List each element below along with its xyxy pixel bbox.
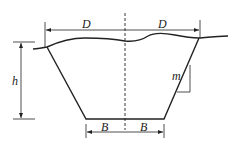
bottom-width-dimension	[86, 124, 164, 138]
label-h: h	[12, 74, 18, 88]
ground-surface-line	[33, 33, 228, 49]
label-m: m	[172, 69, 181, 83]
label-d-left: D	[81, 17, 91, 31]
label-b-left: B	[101, 120, 109, 134]
top-width-dimension	[45, 20, 200, 47]
channel-cross-section-diagram: D D h m B B	[0, 0, 236, 151]
label-b-right: B	[140, 120, 148, 134]
label-d-right: D	[157, 17, 167, 31]
